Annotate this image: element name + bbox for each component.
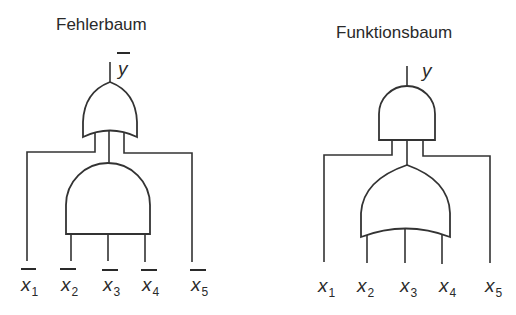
left-input-4-negation-bar: [141, 269, 157, 271]
left-or-gate: [83, 82, 137, 137]
fehlerbaum-diagram: [27, 62, 192, 262]
left-output-negation-bar: [117, 52, 130, 54]
right-output-label: y: [422, 61, 432, 80]
left-input-4-label: x4: [142, 275, 159, 294]
right-input-1-label: x1: [318, 276, 335, 295]
funktionsbaum-diagram: [324, 66, 490, 264]
left-input-5-label: x5: [191, 275, 208, 294]
fehlerbaum-title: Fehlerbaum: [56, 15, 147, 35]
left-and-gate: [66, 163, 150, 234]
left-input-3-label: x3: [103, 275, 120, 294]
left-input-2-label: x2: [61, 275, 78, 294]
left-input-2-negation-bar: [60, 268, 76, 270]
funktionsbaum-title: Funktionsbaum: [336, 23, 452, 43]
right-input-4-label: x4: [439, 276, 456, 295]
right-or-gate: [361, 165, 450, 237]
right-input-3-label: x3: [400, 276, 417, 295]
circuit-drawing: [0, 0, 516, 315]
right-input-2-label: x2: [357, 276, 374, 295]
left-output-label: y: [118, 59, 128, 78]
fault-tree-comparison-figure: Fehlerbaum y x1 x2 x3 x4 x5 Funktionsbau…: [0, 0, 516, 315]
left-input-5-negation-bar: [190, 269, 206, 271]
left-input-3-negation-bar: [102, 269, 118, 271]
left-input-1-label: x1: [21, 275, 38, 294]
left-input-1-negation-bar: [21, 268, 36, 270]
right-and-gate: [379, 86, 435, 140]
right-input-5-label: x5: [485, 276, 502, 295]
